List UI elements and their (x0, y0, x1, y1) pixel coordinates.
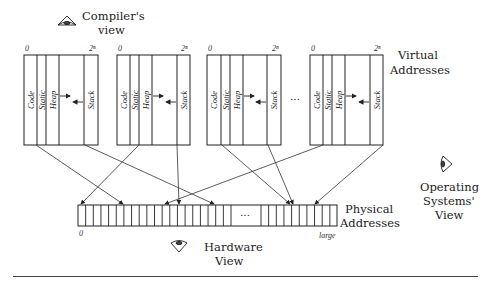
mapping-arrow (165, 145, 323, 204)
mapping-arrow (177, 145, 179, 204)
bottom-divider (13, 276, 478, 277)
mapping-arrow (222, 145, 290, 204)
mapping-arrow (315, 145, 383, 204)
physical-ellipsis: … (240, 206, 250, 220)
physical-range-end: large (319, 231, 336, 240)
hardware-view-line2: View (215, 254, 243, 268)
physical-addresses-line1: Physical (345, 202, 393, 216)
os-view-line3: View (435, 208, 463, 222)
physical-addresses-line2: Addresses (340, 216, 400, 230)
mapping-arrow (85, 145, 214, 204)
hardware-view-line1: Hardware (204, 240, 263, 254)
mapping-arrow (268, 145, 293, 204)
os-view-line2: Systems' (423, 194, 475, 208)
os-view-line1: Operating (420, 180, 479, 194)
physical-range-start: 0 (79, 229, 83, 238)
